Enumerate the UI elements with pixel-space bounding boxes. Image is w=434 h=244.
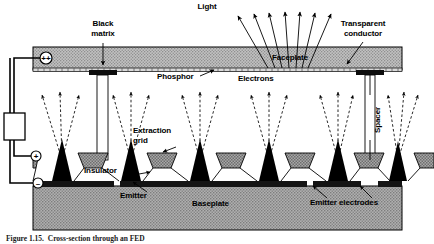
cathode-terminal: – bbox=[33, 178, 43, 188]
label-black-matrix: Black matrix bbox=[78, 19, 128, 38]
power-supply-box bbox=[4, 113, 25, 140]
label-emitter-electrodes: Emitter electrodes bbox=[310, 198, 378, 208]
label-faceplate: Faceplate bbox=[262, 53, 318, 63]
phosphor-layer bbox=[33, 68, 402, 72]
emitter-electrode-strips bbox=[33, 181, 402, 187]
black-matrix-column bbox=[97, 75, 108, 160]
faceplate-slab bbox=[33, 47, 402, 70]
label-baseplate: Baseplate bbox=[192, 199, 229, 209]
label-phosphor: Phosphor bbox=[157, 72, 194, 82]
label-transparent-conductor: Transparent conductor bbox=[326, 19, 400, 38]
label-emitter: Emitter bbox=[120, 191, 147, 201]
label-extraction-grid: Extraction grid bbox=[133, 126, 171, 145]
label-electrons: Electrons bbox=[238, 74, 274, 84]
label-light: Light bbox=[184, 2, 230, 12]
svg-text:+: + bbox=[34, 152, 39, 161]
figure-caption: Figure 1.15. Cross-section through an FE… bbox=[6, 234, 145, 243]
anode-terminal: ++ bbox=[40, 52, 52, 64]
label-insulator: Insulator bbox=[84, 166, 117, 176]
grid-terminal: + bbox=[31, 151, 41, 161]
fed-cross-section-figure: ++ + – bbox=[0, 0, 434, 244]
svg-text:++: ++ bbox=[41, 54, 51, 63]
label-spacer: Spacer bbox=[373, 107, 383, 133]
svg-text:–: – bbox=[36, 179, 41, 188]
